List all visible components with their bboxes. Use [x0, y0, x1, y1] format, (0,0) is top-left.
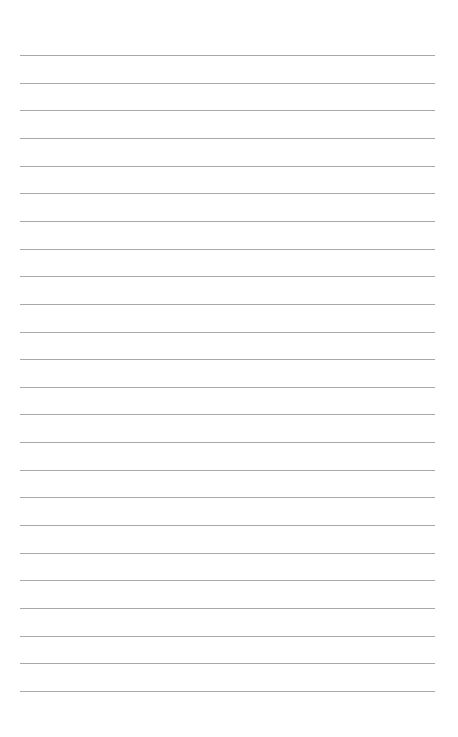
- ruled-line: [20, 497, 435, 498]
- ruled-line: [20, 608, 435, 609]
- ruled-line: [20, 193, 435, 194]
- ruled-line: [20, 55, 435, 56]
- ruled-line: [20, 332, 435, 333]
- ruled-line: [20, 276, 435, 277]
- ruled-line: [20, 387, 435, 388]
- ruled-line: [20, 525, 435, 526]
- ruled-line: [20, 414, 435, 415]
- lined-paper-page: [0, 0, 458, 737]
- ruled-line: [20, 138, 435, 139]
- ruled-line: [20, 470, 435, 471]
- ruled-line: [20, 110, 435, 111]
- ruled-line: [20, 663, 435, 664]
- ruled-line: [20, 304, 435, 305]
- ruled-line: [20, 221, 435, 222]
- ruled-line: [20, 691, 435, 692]
- ruled-line: [20, 359, 435, 360]
- ruled-line: [20, 442, 435, 443]
- ruled-line: [20, 553, 435, 554]
- ruled-line: [20, 636, 435, 637]
- ruled-line: [20, 83, 435, 84]
- ruled-line: [20, 166, 435, 167]
- ruled-line: [20, 249, 435, 250]
- ruled-line: [20, 580, 435, 581]
